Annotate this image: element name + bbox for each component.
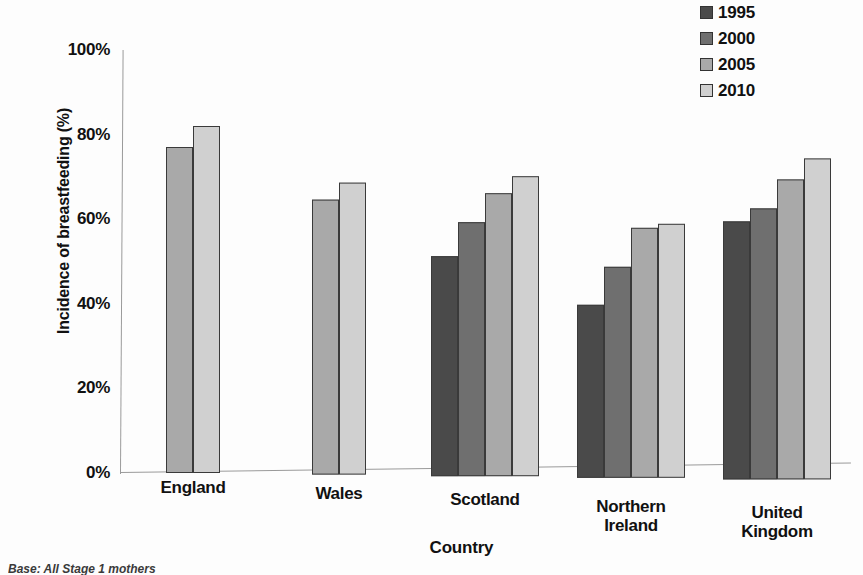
bar — [658, 224, 685, 478]
x-tick-label: England — [120, 478, 266, 538]
x-axis-title: Country — [0, 538, 863, 558]
legend-label-2000: 2000 — [718, 30, 755, 47]
y-tick-label: 60% — [40, 209, 110, 229]
bar — [193, 126, 220, 473]
bar — [312, 200, 339, 475]
bar — [512, 176, 539, 476]
chart-footnote: Base: All Stage 1 mothers — [8, 562, 156, 575]
x-axis-tick-labels: EnglandWalesScotlandNorthernIrelandUnite… — [120, 478, 850, 538]
x-tick-label: Wales — [266, 478, 412, 538]
y-axis-tick-labels: 0%20%40%60%80%100% — [40, 0, 110, 575]
y-tick-label: 20% — [40, 378, 110, 398]
bar-group — [412, 50, 558, 473]
bar — [577, 304, 604, 477]
bar-group-bars — [166, 50, 220, 473]
bar-group-bars — [723, 56, 831, 479]
bar — [777, 179, 804, 479]
bar-group-bars — [312, 52, 366, 475]
bar-group — [266, 50, 412, 473]
bar-groups — [120, 50, 850, 473]
x-tick-label: NorthernIreland — [558, 478, 704, 538]
legend-swatch-1995 — [700, 6, 713, 19]
bar-group-bars — [577, 55, 685, 478]
bar — [166, 147, 193, 473]
y-tick-label: 0% — [40, 463, 110, 483]
legend-label-1995: 1995 — [718, 4, 755, 21]
y-tick-label: 40% — [40, 294, 110, 314]
legend-item-2000: 2000 — [700, 30, 755, 47]
bar — [631, 228, 658, 478]
bar — [485, 193, 512, 476]
x-tick-label: UnitedKingdom — [704, 478, 850, 538]
y-tick-label: 100% — [40, 40, 110, 60]
plot-area — [120, 50, 850, 473]
bar — [604, 266, 631, 478]
bar-group-bars — [431, 53, 539, 476]
bar — [804, 158, 831, 479]
y-tick-label: 80% — [40, 125, 110, 145]
bar — [723, 221, 750, 479]
legend-swatch-2000 — [700, 32, 713, 45]
bar — [431, 256, 458, 476]
bar-chart: 1995 2000 2005 2010 Incidence of breastf… — [0, 0, 863, 575]
bar-group — [120, 50, 266, 473]
bar — [339, 183, 366, 475]
bar — [750, 209, 777, 480]
x-tick-label: Scotland — [412, 478, 558, 538]
bar-group — [558, 50, 704, 473]
bar-group — [704, 50, 850, 473]
bar — [458, 222, 485, 476]
legend-item-1995: 1995 — [700, 4, 755, 21]
